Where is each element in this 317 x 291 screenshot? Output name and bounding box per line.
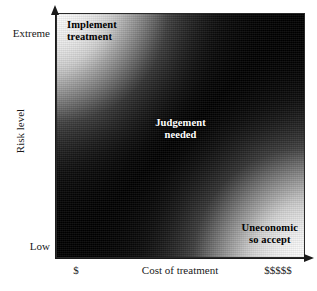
x-axis-tick-low-cost: $ <box>56 264 96 276</box>
up-arrow-icon <box>51 5 59 15</box>
region-label-implement-treatment: Implement treatment <box>67 19 117 42</box>
plot-area: Implement treatment Judgement needed Une… <box>56 13 305 258</box>
y-axis-title: Risk level <box>14 86 26 176</box>
y-axis-tick-extreme: Extreme <box>4 27 50 39</box>
x-axis-line <box>55 258 306 259</box>
right-arrow-icon <box>304 254 314 262</box>
y-axis-tick-low: Low <box>4 240 50 252</box>
region-label-judgement-needed: Judgement needed <box>155 117 205 140</box>
region-label-uneconomic-so-accept: Uneconomic so accept <box>242 222 298 245</box>
y-axis-line <box>55 14 56 259</box>
x-axis-title: Cost of treatment <box>100 264 260 276</box>
risk-cost-matrix-figure: Implement treatment Judgement needed Une… <box>0 0 317 291</box>
